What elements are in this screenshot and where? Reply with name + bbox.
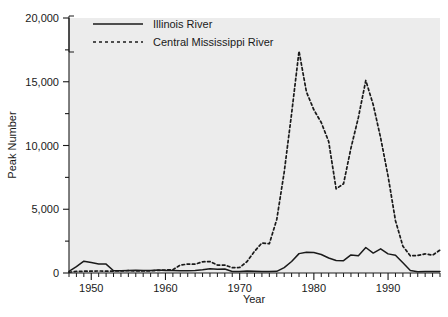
y-tick-label: 20,000 — [25, 12, 59, 24]
line-chart: 05,00010,00015,00020,000 Peak Number 195… — [0, 0, 448, 317]
y-axis: 05,00010,00015,00020,000 Peak Number — [6, 12, 69, 279]
x-tick-label: 1990 — [376, 282, 400, 294]
y-tick-label: 10,000 — [25, 140, 59, 152]
chart-figure: 05,00010,00015,00020,000 Peak Number 195… — [0, 0, 448, 317]
legend-label-illinois-river: Illinois River — [153, 18, 213, 30]
x-tick-label: 1960 — [153, 282, 177, 294]
x-minor-ticks — [69, 273, 440, 277]
y-tick-labels: 05,00010,00015,00020,000 — [25, 12, 59, 279]
y-tick-label: 15,000 — [25, 76, 59, 88]
x-axis-title: Year — [243, 293, 266, 305]
y-tick-label: 0 — [53, 267, 59, 279]
x-tick-labels: 19501960197019801990 — [79, 282, 400, 294]
y-tick-label: 5,000 — [31, 203, 59, 215]
legend-label-central-mississippi-river: Central Mississippi River — [153, 36, 274, 48]
y-major-ticks — [63, 18, 69, 273]
x-tick-label: 1980 — [302, 282, 326, 294]
plot-background — [69, 18, 440, 273]
x-tick-label: 1950 — [79, 282, 103, 294]
x-axis: 19501960197019801990 Year — [69, 273, 440, 305]
y-axis-title: Peak Number — [6, 111, 18, 179]
